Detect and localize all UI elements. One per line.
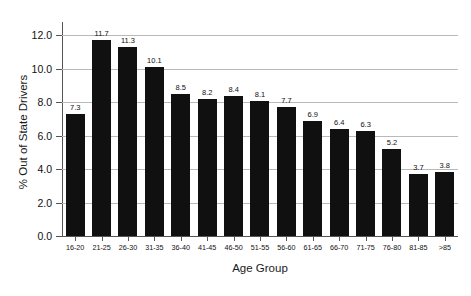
bar bbox=[198, 99, 217, 236]
bar bbox=[224, 96, 243, 236]
x-tick-mark bbox=[313, 237, 314, 241]
x-tick-mark bbox=[392, 237, 393, 241]
y-tick-label: 8.0 bbox=[0, 97, 52, 107]
x-tick-mark bbox=[286, 237, 287, 241]
bar-value-label: 3.7 bbox=[404, 164, 432, 172]
x-tick-mark bbox=[418, 237, 419, 241]
x-axis-title: Age Group bbox=[62, 262, 458, 274]
bar-value-label: 8.1 bbox=[246, 91, 274, 99]
x-tick-mark bbox=[260, 237, 261, 241]
bar bbox=[66, 114, 85, 236]
bar-value-label: 8.5 bbox=[167, 84, 195, 92]
bar bbox=[277, 107, 296, 236]
y-tick-label: 4.0 bbox=[0, 164, 52, 174]
bar-chart: % Out of State Drivers 0.02.04.06.08.010… bbox=[0, 0, 471, 296]
bar bbox=[145, 67, 164, 236]
bar bbox=[409, 174, 428, 236]
y-tick-label: 10.0 bbox=[0, 64, 52, 74]
x-tick-mark bbox=[128, 237, 129, 241]
bar bbox=[356, 131, 375, 236]
x-tick-mark bbox=[75, 237, 76, 241]
x-tick-mark bbox=[154, 237, 155, 241]
bar bbox=[303, 121, 322, 236]
x-tick-mark bbox=[207, 237, 208, 241]
x-tick-label: >85 bbox=[429, 243, 461, 252]
bar-value-label: 5.2 bbox=[378, 139, 406, 147]
bar-value-label: 6.4 bbox=[325, 119, 353, 127]
bar bbox=[250, 101, 269, 236]
bar bbox=[330, 129, 349, 236]
x-tick-mark bbox=[445, 237, 446, 241]
y-tick-label: 6.0 bbox=[0, 131, 52, 141]
bar-value-label: 6.3 bbox=[352, 121, 380, 129]
bar-value-label: 11.3 bbox=[114, 37, 142, 45]
y-tick-mark bbox=[56, 236, 62, 237]
bar-value-label: 7.7 bbox=[272, 97, 300, 105]
y-tick-label: 12.0 bbox=[0, 30, 52, 40]
x-tick-mark bbox=[181, 237, 182, 241]
x-tick-mark bbox=[234, 237, 235, 241]
x-tick-mark bbox=[339, 237, 340, 241]
plot-area bbox=[62, 22, 458, 236]
bar bbox=[435, 172, 454, 236]
bar-value-label: 8.2 bbox=[193, 89, 221, 97]
bar bbox=[382, 149, 401, 236]
bar-value-label: 6.9 bbox=[299, 111, 327, 119]
bar-value-label: 3.8 bbox=[431, 162, 459, 170]
x-tick-mark bbox=[102, 237, 103, 241]
y-tick-label: 0.0 bbox=[0, 231, 52, 241]
bar bbox=[118, 47, 137, 236]
bar bbox=[92, 40, 111, 236]
bar-value-label: 11.7 bbox=[88, 30, 116, 38]
bar bbox=[171, 94, 190, 236]
bar-value-label: 8.4 bbox=[220, 86, 248, 94]
bar-value-label: 10.1 bbox=[140, 57, 168, 65]
y-tick-label: 2.0 bbox=[0, 198, 52, 208]
bar-value-label: 7.3 bbox=[61, 104, 89, 112]
x-tick-mark bbox=[366, 237, 367, 241]
